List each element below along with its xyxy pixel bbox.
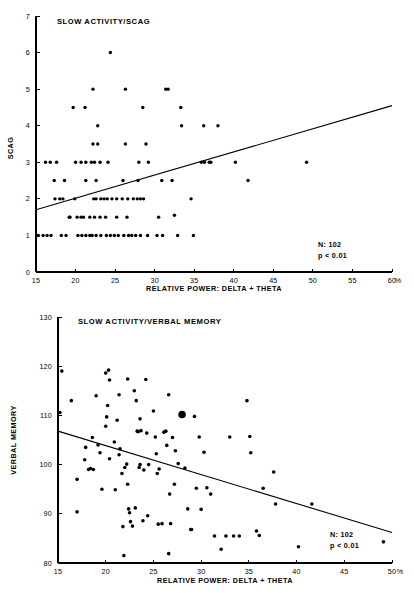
data-point	[157, 467, 161, 471]
x-tick-label: 20	[71, 276, 79, 285]
data-point	[248, 435, 252, 439]
data-point	[133, 389, 137, 393]
data-point	[135, 429, 139, 433]
highlighted-data-point	[178, 411, 186, 419]
scag-plot-title: SLOW ACTIVITY/SCAG	[57, 17, 150, 26]
verbal-y-tick-labels: 8090100110120130	[39, 313, 52, 568]
data-point	[156, 522, 160, 526]
data-point	[165, 444, 169, 448]
data-point	[45, 234, 48, 237]
scag-axes	[36, 16, 392, 272]
data-point	[134, 506, 138, 510]
scag-data-points	[37, 51, 309, 237]
data-point	[305, 161, 308, 164]
data-point	[68, 215, 71, 218]
y-tick-label: 100	[39, 460, 52, 469]
data-point	[144, 378, 148, 382]
verbal-y-axis-label: VERBAL MEMORY	[9, 405, 18, 474]
data-point	[113, 488, 117, 492]
data-point	[90, 161, 93, 164]
data-point	[123, 466, 127, 470]
data-point	[99, 234, 102, 237]
data-point	[117, 234, 120, 237]
data-point	[98, 161, 101, 164]
chart-panel-verbal-memory: 8090100110120130 1520253035404550 SLOW A…	[0, 295, 414, 593]
data-point	[202, 124, 205, 127]
y-tick-label: 110	[40, 411, 52, 420]
data-point	[132, 197, 135, 200]
data-point	[146, 514, 150, 518]
data-point	[154, 452, 158, 456]
data-point	[49, 234, 52, 237]
data-point	[126, 482, 130, 486]
data-point	[113, 440, 117, 444]
data-point	[96, 142, 99, 145]
data-point	[74, 161, 77, 164]
data-point	[126, 377, 130, 381]
data-point	[100, 487, 104, 491]
data-point	[55, 161, 58, 164]
data-point	[261, 486, 265, 490]
data-point	[128, 511, 132, 515]
data-point	[180, 124, 183, 127]
x-tick-label: 25	[111, 276, 119, 285]
data-point	[110, 197, 113, 200]
data-point	[104, 424, 108, 428]
data-point	[94, 197, 97, 200]
data-point	[166, 87, 169, 90]
data-point	[84, 161, 87, 164]
x-tick-label: 50	[388, 567, 396, 576]
data-point	[176, 234, 179, 237]
data-point	[115, 197, 118, 200]
data-point	[173, 482, 177, 486]
data-point	[79, 161, 82, 164]
data-point	[245, 399, 249, 403]
scag-p-annotation: p < 0.01	[318, 251, 347, 260]
data-point	[145, 431, 149, 435]
data-point	[234, 161, 237, 164]
data-point	[161, 234, 164, 237]
data-point	[142, 468, 146, 472]
data-point	[173, 214, 176, 217]
data-point	[98, 451, 102, 455]
data-point	[109, 234, 112, 237]
data-point	[53, 197, 56, 200]
x-tick-label: 40	[292, 567, 300, 576]
data-point	[167, 393, 171, 397]
x-tick-label: 25	[149, 567, 157, 576]
scag-y-tick-labels: 01234567	[26, 12, 30, 277]
data-point	[37, 234, 40, 237]
data-point	[58, 197, 61, 200]
data-point	[94, 179, 97, 182]
data-point	[142, 197, 145, 200]
verbal-plot-title: SLOW ACTIVITY/VERBAL MEMORY	[78, 317, 221, 326]
data-point	[219, 547, 223, 551]
data-point	[197, 435, 201, 439]
x-tick-label: 50	[309, 276, 317, 285]
data-point	[205, 486, 209, 490]
y-tick-label: 120	[39, 362, 52, 371]
data-point	[120, 472, 124, 476]
x-tick-label: 45	[340, 567, 348, 576]
data-point	[139, 429, 143, 433]
data-point	[167, 552, 171, 556]
data-point	[94, 394, 98, 398]
data-point	[186, 507, 190, 511]
data-point	[155, 234, 158, 237]
y-tick-label: 4	[26, 121, 30, 130]
data-point	[108, 378, 112, 382]
data-point	[102, 197, 105, 200]
data-point	[297, 545, 301, 549]
data-point	[195, 486, 199, 490]
data-point	[93, 215, 96, 218]
data-point	[138, 463, 142, 467]
data-point	[246, 179, 249, 182]
data-point	[202, 451, 206, 455]
data-point	[44, 161, 47, 164]
y-tick-label: 6	[26, 48, 30, 57]
data-point	[126, 197, 129, 200]
data-point	[113, 234, 116, 237]
y-tick-label: 130	[39, 313, 52, 322]
data-point	[99, 197, 102, 200]
verbal-axes	[58, 317, 392, 563]
